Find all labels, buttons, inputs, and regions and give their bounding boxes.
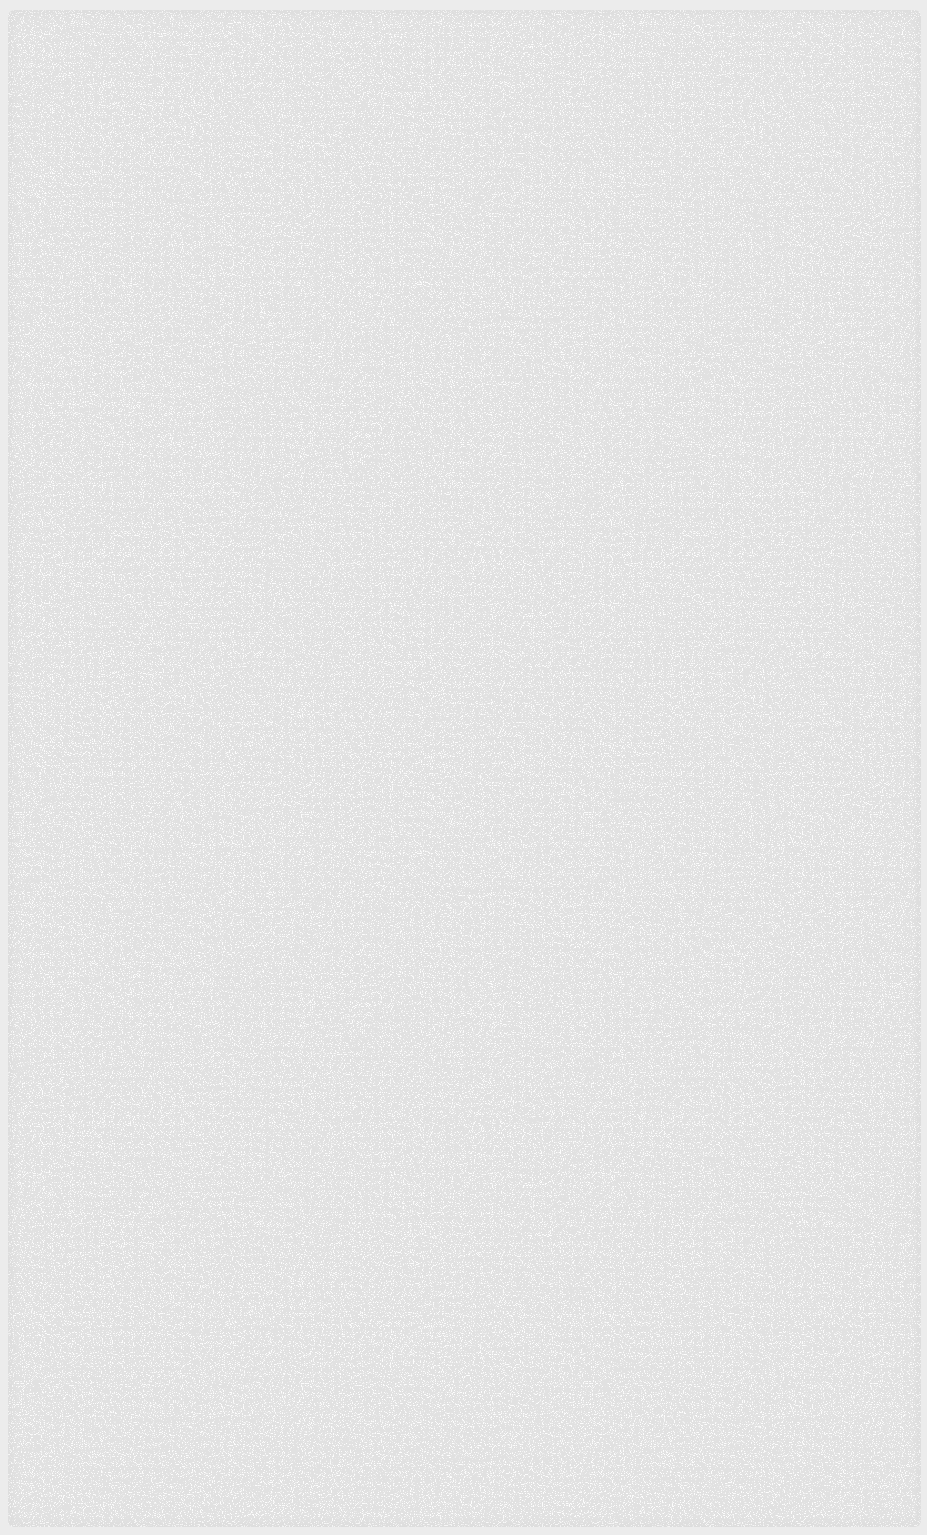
- page-content: [8, 10, 921, 1527]
- blank-page: [8, 10, 921, 1527]
- scan-frame: [0, 0, 927, 1535]
